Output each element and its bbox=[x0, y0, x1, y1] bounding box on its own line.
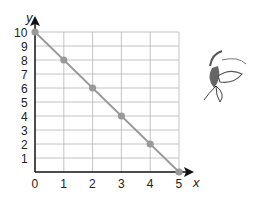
x-tick-label: 1 bbox=[60, 177, 67, 191]
x-tick-label: 5 bbox=[176, 177, 183, 191]
x-tick-label: 4 bbox=[147, 177, 154, 191]
x-axis-label: x bbox=[192, 175, 200, 190]
data-point bbox=[89, 84, 96, 91]
y-tick-label: 9 bbox=[21, 40, 28, 54]
y-tick-label: 6 bbox=[21, 82, 28, 96]
y-tick-label: 4 bbox=[21, 110, 28, 124]
plant-sketch-icon bbox=[204, 51, 246, 102]
y-tick-label: 3 bbox=[21, 124, 28, 138]
y-tick-label: 1 bbox=[21, 152, 28, 166]
axes bbox=[30, 16, 194, 177]
x-tick-label: 3 bbox=[118, 177, 125, 191]
y-tick-label: 8 bbox=[21, 54, 28, 68]
line-chart: 01234512345678910 x y bbox=[0, 0, 255, 197]
y-tick-label: 2 bbox=[21, 138, 28, 152]
y-tick-label: 7 bbox=[21, 68, 28, 82]
data-point bbox=[118, 112, 125, 119]
data-point bbox=[31, 28, 38, 35]
x-tick-label: 0 bbox=[32, 177, 39, 191]
data-point bbox=[147, 140, 154, 147]
tick-labels: 01234512345678910 bbox=[14, 26, 183, 192]
y-tick-label: 10 bbox=[14, 26, 28, 40]
y-tick-label: 5 bbox=[21, 96, 28, 110]
data-point bbox=[60, 56, 67, 63]
x-tick-label: 2 bbox=[89, 177, 96, 191]
data-point bbox=[175, 168, 182, 175]
